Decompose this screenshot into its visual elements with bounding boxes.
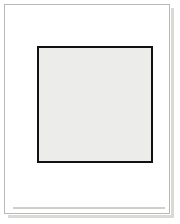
source-note	[15, 190, 165, 200]
area-chart	[39, 48, 151, 161]
plot-inner	[39, 48, 151, 161]
plot-area	[37, 46, 153, 163]
panel-shadow-bottom	[8, 215, 174, 218]
y-axis-labels	[5, 41, 35, 171]
bottom-rule	[13, 207, 165, 209]
x-axis-labels	[37, 166, 153, 180]
panel-shadow-right	[171, 8, 174, 216]
figure-panel	[4, 4, 170, 214]
